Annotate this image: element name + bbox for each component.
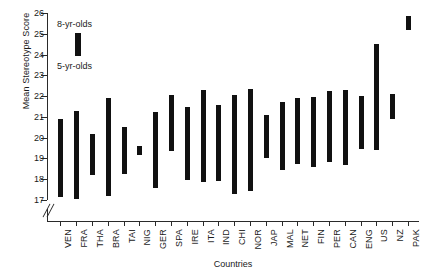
- x-tick-label-VEN: VEN: [64, 229, 73, 248]
- range-bar-PER: [327, 91, 332, 162]
- x-tick-label-ITA: ITA: [207, 229, 216, 243]
- range-bar-US: [374, 44, 379, 150]
- x-tick-label-US: US: [380, 229, 389, 242]
- y-tick-label: 20: [34, 134, 44, 143]
- stereotype-score-range-chart: Mean Stereotype Score 171819202122232425…: [0, 0, 425, 275]
- legend-label-8yr: 8-yr-olds: [57, 20, 92, 29]
- range-bar-TAI: [122, 127, 127, 174]
- y-tick-label: 23: [34, 71, 44, 80]
- axis-break-icon: [42, 203, 55, 219]
- x-tick-mark-ENG: [361, 221, 362, 226]
- range-bar-NET: [295, 98, 300, 163]
- y-tick-label: 25: [34, 30, 44, 39]
- legend-label-5yr: 5-yr-olds: [57, 62, 92, 71]
- range-bar-IND: [216, 105, 221, 181]
- x-tick-label-IND: IND: [222, 229, 231, 245]
- y-tick-label: 22: [34, 92, 44, 101]
- range-bar-FRA: [74, 111, 79, 199]
- x-tick-label-BRA: BRA: [112, 229, 121, 248]
- legend-sample-bar: [75, 33, 81, 56]
- x-tick-mark-NIG: [139, 221, 140, 226]
- x-tick-mark-NET: [297, 221, 298, 226]
- x-tick-label-THA: THA: [96, 229, 105, 248]
- x-tick-label-CAN: CAN: [349, 229, 358, 249]
- x-tick-mark-FIN: [313, 221, 314, 226]
- y-tick-label: 21: [34, 113, 44, 122]
- x-tick-label-FRA: FRA: [80, 229, 89, 248]
- x-tick-mark-ITA: [203, 221, 204, 226]
- x-tick-label-NIG: NIG: [143, 229, 152, 246]
- x-axis-title: Countries: [47, 259, 419, 269]
- y-tick-label: 26: [34, 9, 44, 18]
- x-tick-label-NZ: NZ: [396, 229, 405, 241]
- range-bar-PAK: [406, 16, 411, 30]
- range-bar-VEN: [58, 119, 63, 197]
- x-tick-mark-IND: [218, 221, 219, 226]
- x-tick-mark-PER: [329, 221, 330, 226]
- x-tick-label-SPA: SPA: [175, 229, 184, 247]
- y-tick-label: 18: [34, 175, 44, 184]
- range-bar-CAN: [343, 90, 348, 165]
- y-tick-label: 19: [34, 154, 44, 163]
- range-bar-NIG: [137, 146, 142, 155]
- range-bar-THA: [90, 134, 95, 176]
- x-tick-mark-US: [376, 221, 377, 226]
- y-tick-label: 17: [34, 196, 44, 205]
- range-bar-NZ: [390, 94, 395, 119]
- range-bar-MAL: [280, 102, 285, 170]
- x-tick-mark-SPA: [171, 221, 172, 226]
- x-tick-mark-IRE: [187, 221, 188, 226]
- y-tick-label: 24: [34, 51, 44, 60]
- x-tick-label-MAL: MAL: [286, 229, 295, 248]
- x-tick-label-FIN: FIN: [317, 229, 326, 244]
- range-bar-CHI: [232, 95, 237, 194]
- range-bar-NOR: [248, 89, 253, 191]
- plot-area: 17181920212223242526 VENFRATHABRATAINIGG…: [47, 13, 419, 200]
- x-tick-label-JAP: JAP: [270, 229, 279, 246]
- range-bar-ENG: [359, 96, 364, 149]
- range-bar-FIN: [311, 97, 316, 167]
- x-tick-label-IRE: IRE: [191, 229, 200, 245]
- x-tick-mark-TAI: [124, 221, 125, 226]
- x-tick-mark-NZ: [392, 221, 393, 226]
- x-tick-label-GER: GER: [159, 229, 168, 249]
- x-tick-mark-CHI: [234, 221, 235, 226]
- x-tick-mark-BRA: [108, 221, 109, 226]
- range-bar-IRE: [185, 107, 190, 181]
- range-bar-BRA: [106, 98, 111, 196]
- x-tick-mark-PAK: [408, 221, 409, 226]
- x-tick-mark-GER: [155, 221, 156, 226]
- x-tick-label-ENG: ENG: [365, 229, 374, 249]
- x-tick-label-PAK: PAK: [412, 229, 421, 247]
- x-tick-label-CHI: CHI: [238, 229, 247, 245]
- range-bar-ITA: [201, 90, 206, 182]
- range-bar-GER: [153, 112, 158, 188]
- x-tick-mark-VEN: [60, 221, 61, 226]
- range-bar-SPA: [169, 95, 174, 151]
- y-axis-title: Mean Stereotype Score: [21, 0, 31, 131]
- x-tick-mark-THA: [92, 221, 93, 226]
- x-tick-label-TAI: TAI: [128, 229, 137, 243]
- x-tick-label-NET: NET: [301, 229, 310, 248]
- range-bar-JAP: [264, 115, 269, 159]
- x-tick-label-PER: PER: [333, 229, 342, 248]
- x-tick-mark-JAP: [266, 221, 267, 226]
- x-tick-mark-NOR: [250, 221, 251, 226]
- x-tick-mark-CAN: [345, 221, 346, 226]
- x-axis-line: [47, 221, 419, 222]
- x-tick-label-NOR: NOR: [254, 229, 263, 250]
- x-tick-mark-MAL: [282, 221, 283, 226]
- y-axis-line: [47, 13, 48, 200]
- x-tick-mark-FRA: [76, 221, 77, 226]
